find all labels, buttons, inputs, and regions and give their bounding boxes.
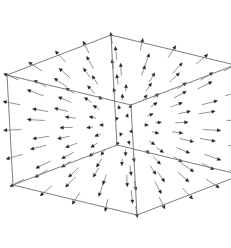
arrow-head-icon: [216, 185, 220, 188]
arrow-head-icon: [120, 133, 123, 137]
arrow-head-icon: [36, 165, 40, 168]
arrow-head-icon: [119, 63, 122, 66]
box-edge: [7, 35, 111, 75]
arrow-head-icon: [187, 110, 190, 113]
arrow-head-icon: [153, 171, 156, 175]
arrow-head-icon: [160, 149, 164, 152]
arrow-head-icon: [27, 90, 31, 93]
arrow-head-icon: [121, 94, 124, 97]
vector-field-plot: [0, 0, 231, 248]
arrow-head-icon: [141, 39, 144, 42]
arrow-head-icon: [89, 116, 92, 119]
arrow-head-icon: [55, 107, 58, 110]
box-edge: [111, 35, 231, 65]
arrow-head-icon: [161, 178, 164, 182]
box-edge: [13, 145, 117, 185]
arrow-head-icon: [66, 145, 70, 148]
arrow-head-icon: [127, 141, 130, 145]
arrow-head-icon: [212, 110, 215, 113]
arrow-head-icon: [120, 162, 123, 165]
arrow-head-icon: [179, 102, 183, 105]
arrow-shaft: [227, 120, 231, 121]
arrow-shaft: [225, 91, 231, 96]
arrow-head-icon: [87, 126, 90, 129]
arrow-head-icon: [93, 105, 97, 108]
arrow-head-icon: [91, 144, 95, 147]
arrow-head-icon: [124, 153, 127, 156]
arrow-head-icon: [54, 78, 58, 81]
arrow-head-icon: [153, 103, 157, 106]
box-edge: [131, 65, 231, 105]
arrow-head-icon: [152, 73, 155, 77]
vector-arrows: [3, 33, 231, 218]
arrow-shaft: [228, 145, 231, 148]
arrow-head-icon: [93, 174, 96, 178]
arrow-head-icon: [33, 137, 36, 140]
arrow-head-icon: [217, 157, 221, 160]
arrow-head-icon: [92, 76, 95, 80]
arrow-head-icon: [155, 131, 158, 134]
arrow-head-icon: [98, 193, 101, 197]
arrow-head-icon: [208, 82, 212, 85]
arrow-head-icon: [87, 56, 90, 60]
arrow-head-icon: [214, 100, 217, 103]
arrow-head-icon: [147, 54, 150, 58]
arrow-head-icon: [6, 157, 10, 160]
arrow-head-icon: [126, 183, 129, 186]
arrow-head-icon: [104, 208, 107, 211]
arrow-head-icon: [33, 108, 36, 111]
arrow-head-icon: [124, 85, 127, 88]
arrow-head-icon: [145, 123, 148, 126]
arrow-head-icon: [158, 121, 161, 124]
arrow-head-icon: [62, 156, 66, 159]
arrow-head-icon: [58, 97, 62, 100]
arrow-head-icon: [29, 62, 33, 65]
arrow-head-icon: [103, 181, 106, 185]
arrow-head-icon: [85, 98, 89, 101]
arrow-head-icon: [100, 123, 103, 126]
arrow-head-icon: [185, 121, 188, 124]
arrow-head-icon: [217, 129, 220, 132]
arrow-head-icon: [190, 169, 194, 172]
arrow-head-icon: [65, 116, 68, 119]
arrow-head-icon: [72, 201, 75, 205]
arrow-head-icon: [179, 131, 182, 134]
arrow-head-icon: [84, 68, 87, 72]
arrow-head-icon: [129, 172, 132, 175]
arrow-head-icon: [4, 129, 7, 132]
arrow-head-icon: [151, 142, 155, 145]
arrow-head-icon: [95, 134, 99, 137]
arrow-head-icon: [116, 75, 119, 78]
arrow-head-icon: [125, 114, 128, 118]
arrow-head-icon: [158, 190, 161, 194]
arrow-head-icon: [148, 83, 151, 87]
arrow-head-icon: [27, 118, 30, 121]
arrow-head-icon: [3, 100, 6, 103]
box-edge: [7, 75, 131, 105]
arrow-head-icon: [212, 139, 215, 142]
arrow-head-icon: [183, 91, 187, 94]
arrow-head-icon: [150, 113, 154, 116]
arrow-head-icon: [173, 46, 176, 50]
arrow-head-icon: [131, 200, 134, 203]
arrow-head-icon: [31, 147, 34, 150]
arrow-head-icon: [114, 47, 117, 50]
arrow-head-icon: [190, 139, 193, 142]
arrow-head-icon: [186, 150, 190, 153]
arrow-head-icon: [58, 136, 61, 139]
arrow-head-icon: [97, 163, 100, 167]
box-edge: [13, 185, 137, 215]
bounding-box: [7, 35, 231, 215]
arrow-head-icon: [118, 105, 121, 109]
arrow-shaft: [229, 170, 231, 176]
box-edge: [137, 175, 231, 215]
arrow-head-icon: [60, 126, 63, 129]
